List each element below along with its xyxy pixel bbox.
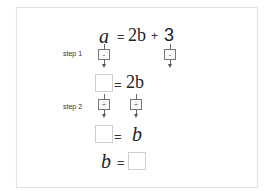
step-1-right-op-box[interactable]: - [164,49,176,60]
term-2b: 2b [126,72,144,93]
equals-sign: = [117,155,125,170]
down-arrow-icon [102,64,106,68]
equals-sign: = [117,29,125,44]
equals-sign: = [114,129,122,144]
step-1-left-op-box[interactable]: - [98,49,110,60]
plus-sign: + [151,29,158,43]
term-3: 3 [164,25,174,46]
variable-b: b [101,150,111,173]
term-2b-text: 2b [126,72,144,92]
term-2b-text: 2b [128,25,146,45]
step-2-label: step 2 [63,103,82,110]
down-arrow-icon [168,64,172,68]
answer-box-line-4[interactable] [128,152,146,170]
variable-b: b [132,123,142,146]
down-arrow-icon [134,114,138,118]
step-2-left-op-box[interactable]: ÷ [98,99,110,110]
term-2b: 2b [128,25,146,46]
step-1-label: step 1 [63,50,82,57]
equals-sign: = [114,77,122,92]
answer-box-line-3[interactable] [95,125,113,143]
down-arrow-icon [102,114,106,118]
answer-box-line-2[interactable] [95,74,113,92]
step-2-right-op-box[interactable]: ÷ [130,99,142,110]
